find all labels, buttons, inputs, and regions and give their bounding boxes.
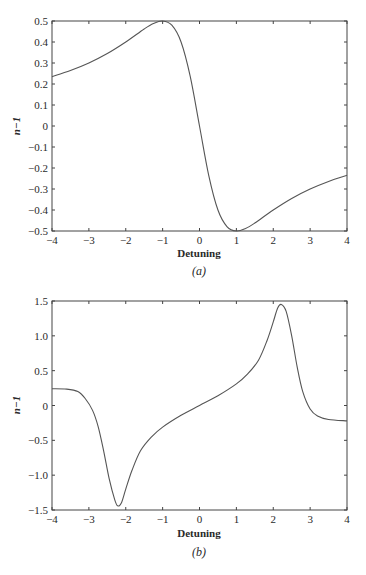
y-tick-label: 0	[43, 400, 49, 412]
x-tick-label: −2	[120, 513, 132, 525]
y-tick-label: −1.0	[28, 469, 48, 481]
y-tick-label: 0.2	[34, 78, 48, 90]
y-tick-label: −0.4	[28, 204, 48, 216]
x-tick-label: 2	[271, 513, 277, 525]
x-tick-label: 1	[234, 234, 240, 246]
x-tick-label: 4	[344, 513, 350, 525]
y-tick-label: 0.1	[34, 99, 48, 111]
caption-a: (a)	[192, 264, 206, 278]
y-tick-label: 1.5	[34, 295, 48, 307]
y-axis-title-b: n−1	[10, 396, 22, 414]
plot-panel-a: −4−3−2−101234−0.5−0.4−0.3−0.2−0.100.10.2…	[10, 15, 350, 278]
y-tick-label: 0	[43, 120, 49, 132]
plot-panel-b: −4−3−2−101234−1.5−1.0−0.500.51.01.5 n−1 …	[10, 295, 350, 559]
caption-b: (b)	[192, 545, 206, 559]
x-tick-label: 3	[307, 234, 313, 246]
y-tick-label: 0.3	[34, 57, 48, 69]
y-tick-label: 1.0	[34, 330, 48, 342]
data-curve-a	[52, 21, 347, 231]
x-tick-label: −2	[120, 234, 132, 246]
y-tick-label: −0.2	[28, 162, 48, 174]
data-curve-b	[52, 304, 347, 506]
x-tick-label: 4	[344, 234, 350, 246]
figure: −4−3−2−101234−0.5−0.4−0.3−0.2−0.100.10.2…	[0, 0, 366, 575]
x-axis-title-b: Detuning	[177, 527, 221, 539]
x-tick-label: −1	[157, 234, 169, 246]
tick-labels-a: −4−3−2−101234−0.5−0.4−0.3−0.2−0.100.10.2…	[28, 15, 350, 246]
x-tick-label: 0	[197, 513, 203, 525]
y-tick-label: −0.5	[28, 225, 48, 237]
x-tick-label: −3	[83, 234, 95, 246]
x-tick-label: −3	[83, 513, 95, 525]
y-tick-label: 0.4	[34, 36, 48, 48]
y-axis-title-a: n−1	[10, 117, 22, 135]
y-tick-label: −1.5	[28, 504, 48, 516]
tick-labels-b: −4−3−2−101234−1.5−1.0−0.500.51.01.5	[28, 295, 350, 525]
y-tick-label: 0.5	[34, 15, 48, 27]
x-tick-label: 3	[307, 513, 313, 525]
y-tick-label: −0.5	[28, 434, 48, 446]
x-tick-label: −1	[157, 513, 169, 525]
y-tick-label: 0.5	[34, 365, 48, 377]
x-tick-label: 0	[197, 234, 203, 246]
y-tick-label: −0.1	[28, 141, 48, 153]
x-tick-label: 2	[271, 234, 277, 246]
x-axis-title-a: Detuning	[177, 247, 221, 259]
y-tick-label: −0.3	[28, 183, 48, 195]
x-tick-label: 1	[234, 513, 240, 525]
